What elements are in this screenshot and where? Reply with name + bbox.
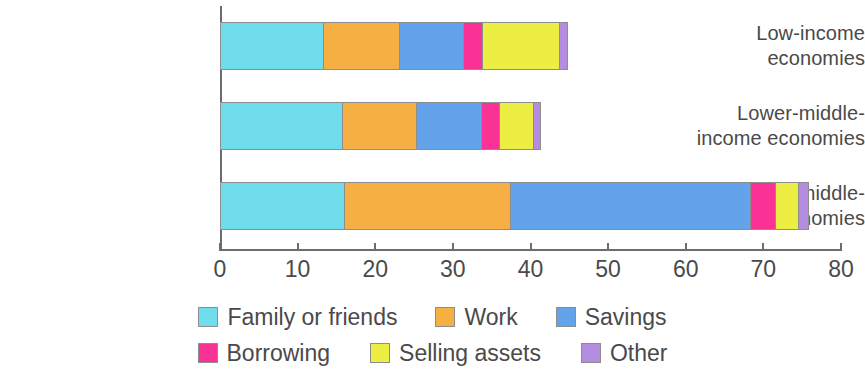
bar-segment-family-or-friends: [221, 23, 324, 69]
legend-label: Family or friends: [227, 304, 397, 330]
chart-legend: Family or friendsWorkSavingsBorrowingSel…: [0, 296, 865, 371]
legend-swatch-icon: [370, 343, 390, 363]
legend-swatch-icon: [435, 307, 455, 327]
bar-segment-savings: [511, 183, 751, 229]
x-tick-label-80: 80: [828, 256, 854, 283]
stacked-bar-chart: Low-incomeeconomiesLower-middle-income e…: [0, 0, 865, 371]
bar-segment-work: [324, 23, 400, 69]
bar-segment-family-or-friends: [221, 103, 343, 149]
bar-segment-work: [345, 183, 511, 229]
bar-segment-other: [560, 23, 567, 69]
legend-swatch-icon: [198, 343, 218, 363]
legend-row-1: Family or friendsWorkSavings: [0, 304, 865, 330]
x-tick-label-60: 60: [673, 256, 699, 283]
legend-item-work[interactable]: Work: [435, 304, 517, 330]
x-tick-60: [685, 243, 687, 251]
bar-segment-selling-assets: [776, 183, 798, 229]
bar-2: [220, 102, 541, 150]
bar-segment-selling-assets: [500, 103, 534, 149]
legend-label: Selling assets: [399, 340, 541, 366]
x-tick-40: [530, 243, 532, 251]
x-tick-label-30: 30: [440, 256, 466, 283]
x-tick-80: [840, 243, 842, 251]
bar-segment-selling-assets: [483, 23, 560, 69]
legend-row-2: BorrowingSelling assetsOther: [0, 340, 865, 366]
bar-3: [220, 182, 809, 230]
x-tick-10: [297, 243, 299, 251]
legend-item-family-or-friends[interactable]: Family or friends: [198, 304, 397, 330]
legend-label: Borrowing: [227, 340, 331, 366]
bar-segment-borrowing: [482, 103, 501, 149]
legend-swatch-icon: [581, 343, 601, 363]
legend-label: Other: [610, 340, 668, 366]
x-tick-20: [374, 243, 376, 251]
bar-segment-borrowing: [751, 183, 777, 229]
legend-item-selling-assets[interactable]: Selling assets: [370, 340, 541, 366]
bar-segment-family-or-friends: [221, 183, 345, 229]
legend-swatch-icon: [198, 307, 218, 327]
bar-segment-borrowing: [464, 23, 483, 69]
x-tick-label-0: 0: [214, 256, 227, 283]
bar-1: [220, 22, 568, 70]
x-tick-label-70: 70: [751, 256, 777, 283]
legend-label: Savings: [585, 304, 667, 330]
x-tick-label-40: 40: [518, 256, 544, 283]
x-tick-label-10: 10: [285, 256, 311, 283]
bar-segment-savings: [417, 103, 482, 149]
bar-segment-work: [343, 103, 417, 149]
legend-item-borrowing[interactable]: Borrowing: [198, 340, 331, 366]
legend-item-savings[interactable]: Savings: [556, 304, 667, 330]
x-tick-50: [607, 243, 609, 251]
x-tick-30: [452, 243, 454, 251]
legend-label: Work: [464, 304, 517, 330]
x-tick-0: [219, 243, 221, 251]
bar-segment-savings: [400, 23, 464, 69]
legend-swatch-icon: [556, 307, 576, 327]
bar-segment-other: [799, 183, 808, 229]
x-tick-label-50: 50: [595, 256, 621, 283]
x-tick-label-20: 20: [362, 256, 388, 283]
bar-segment-other: [534, 103, 539, 149]
legend-item-other[interactable]: Other: [581, 340, 668, 366]
x-tick-70: [762, 243, 764, 251]
plot-area: 01020304050607080: [220, 0, 865, 255]
